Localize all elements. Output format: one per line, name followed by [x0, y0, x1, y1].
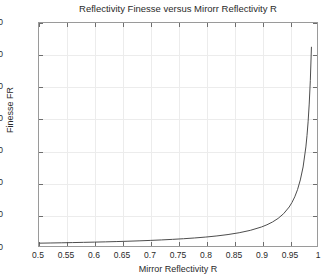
finesse-curve: [39, 23, 317, 246]
y-tick-label: 100: [0, 178, 3, 187]
x-tick-label: 1: [298, 250, 327, 260]
curve-path: [39, 47, 311, 243]
y-tick-label: 200: [0, 114, 3, 123]
page-title: Reflectivity Finesse versus Mirorr Refle…: [38, 3, 318, 15]
plot-area: [38, 22, 318, 247]
figure-canvas: Reflectivity Finesse versus Mirorr Refle…: [0, 0, 327, 280]
y-tick-label: 50: [0, 210, 3, 219]
y-tick-label: 300: [0, 50, 3, 59]
y-tick-label: 350: [0, 18, 3, 27]
y-tick-label: 0: [0, 243, 3, 252]
y-tick-label: 250: [0, 82, 3, 91]
y-tick-label: 150: [0, 146, 3, 155]
x-axis-label: Mirror Reflectivity R: [38, 264, 318, 275]
y-axis-label: Finesse FR: [5, 70, 15, 150]
